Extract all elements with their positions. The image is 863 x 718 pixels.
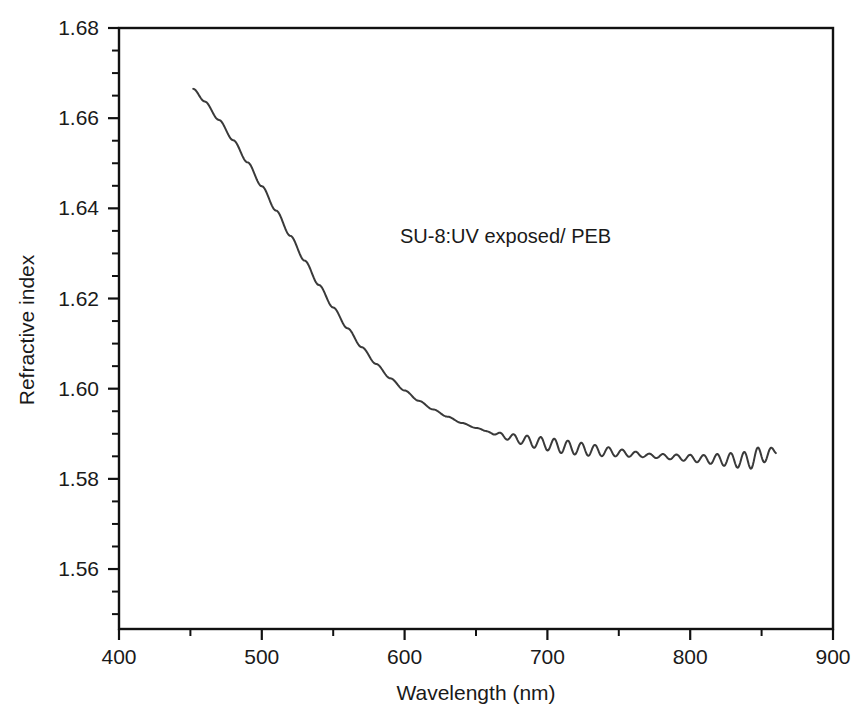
x-tick-label: 400 (101, 645, 136, 668)
x-tick-label: 700 (530, 645, 565, 668)
y-tick-label: 1.64 (58, 196, 99, 219)
data-series-group (193, 89, 776, 469)
y-tick-label: 1.56 (58, 557, 99, 580)
y-tick-label: 1.66 (58, 106, 99, 129)
series-annotation-label: SU-8:UV exposed/ PEB (400, 225, 611, 247)
refractive-index-chart: 400500600700800900 1.561.581.601.621.641… (0, 0, 863, 718)
y-tick-label: 1.60 (58, 377, 99, 400)
y-axis-ticks (108, 28, 119, 614)
plot-frame (119, 28, 833, 629)
x-tick-label: 900 (815, 645, 850, 668)
x-tick-label: 600 (387, 645, 422, 668)
figure-container: 400500600700800900 1.561.581.601.621.641… (0, 0, 863, 718)
data-series-curve (193, 89, 776, 469)
x-axis-tick-labels: 400500600700800900 (101, 645, 850, 668)
x-tick-label: 500 (244, 645, 279, 668)
x-axis-title: Wavelength (nm) (396, 681, 555, 704)
y-tick-label: 1.62 (58, 287, 99, 310)
y-axis-tick-labels: 1.561.581.601.621.641.661.68 (58, 16, 99, 580)
y-tick-label: 1.58 (58, 467, 99, 490)
x-axis-ticks (119, 629, 833, 640)
y-tick-label: 1.68 (58, 16, 99, 39)
y-axis-title: Refractive index (15, 254, 38, 405)
x-tick-label: 800 (673, 645, 708, 668)
